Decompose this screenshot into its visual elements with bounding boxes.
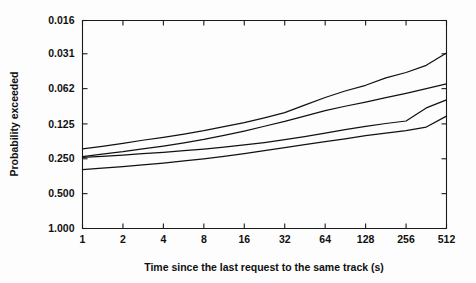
y-tick-label: 0.062 (48, 82, 74, 94)
probability-exceeded-chart: 0.0160.0310.0620.1250.2500.5001.000 1248… (0, 0, 476, 283)
x-tick-label: 4 (160, 233, 166, 245)
y-tick-label: 0.016 (48, 14, 74, 26)
x-axis-title: Time since the last request to the same … (144, 261, 384, 273)
x-tick-label: 16 (238, 233, 250, 245)
x-tick-label: 32 (279, 233, 291, 245)
x-tick-label: 512 (438, 233, 456, 245)
y-tick-label: 0.500 (48, 187, 74, 199)
x-tick-label: 2 (120, 233, 126, 245)
x-tick-label: 256 (397, 233, 415, 245)
y-tick-label: 0.031 (48, 47, 74, 59)
chart-page: 0.0160.0310.0620.1250.2500.5001.000 1248… (0, 0, 476, 283)
y-axis-title: Probability exceeded (8, 71, 20, 176)
x-tick-label: 128 (357, 233, 375, 245)
x-tick-label: 64 (319, 233, 331, 245)
y-tick-label: 1.000 (48, 222, 74, 234)
x-tick-label: 8 (201, 233, 207, 245)
y-tick-label: 0.250 (48, 152, 74, 164)
y-tick-label: 0.125 (48, 118, 74, 130)
x-tick-label: 1 (80, 233, 86, 245)
